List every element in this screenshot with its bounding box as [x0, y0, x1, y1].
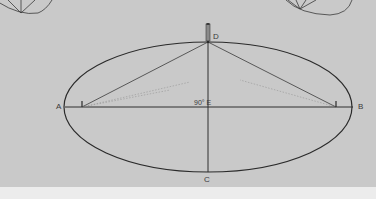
label-c: C	[204, 176, 210, 184]
label-b: B	[358, 103, 363, 111]
ellipse-diagram: A B C D 90° E	[0, 0, 376, 199]
label-a: A	[56, 103, 61, 111]
string-left	[82, 42, 208, 107]
label-e: 90° E	[194, 99, 211, 106]
pencil-icon	[206, 23, 210, 43]
page-bottom-margin	[0, 187, 376, 199]
diagram-canvas	[0, 0, 376, 199]
string-right	[208, 42, 336, 107]
partial-figure-top-left	[0, 0, 52, 14]
partial-figure-top-right	[286, 0, 352, 15]
label-d: D	[213, 33, 219, 41]
